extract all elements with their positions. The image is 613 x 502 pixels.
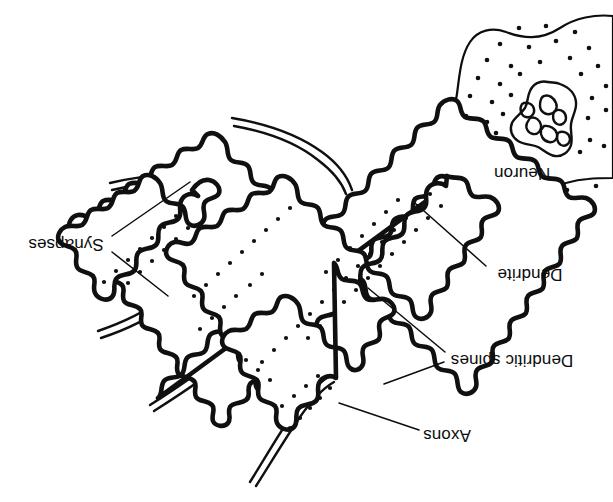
leader-line-axons [339, 403, 419, 430]
label-dendritic-spines: Dendritic spines [451, 351, 574, 370]
label-axons: Axons [423, 426, 471, 445]
label-dendrite: Dendrite [497, 265, 562, 284]
label-neuron: Neuron [494, 164, 550, 183]
leader-line-dendritic-spines-b [384, 362, 444, 384]
label-synapses: Synapses [28, 235, 103, 254]
diagram-canvas: Synapses Neuron Dendrite Dendritic spine… [0, 0, 613, 502]
neuron-diagram-figure: Synapses Neuron Dendrite Dendritic spine… [0, 0, 613, 502]
